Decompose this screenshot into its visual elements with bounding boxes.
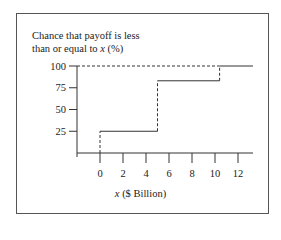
- y-tick-label: 50: [56, 104, 67, 115]
- y-tick-label: 100: [50, 61, 66, 72]
- x-tick-label: 4: [143, 168, 149, 179]
- x-tick-label: 0: [97, 168, 102, 179]
- y-tick-label: 25: [56, 126, 67, 137]
- x-tick-label: 12: [233, 168, 244, 179]
- y-tick-label: 75: [56, 82, 67, 93]
- x-tick-label: 6: [166, 168, 171, 179]
- x-axis-title: x ($ Billion): [0, 188, 281, 199]
- x-tick-label: 10: [210, 168, 221, 179]
- x-tick-label: 8: [189, 168, 194, 179]
- x-tick-label: 2: [120, 168, 125, 179]
